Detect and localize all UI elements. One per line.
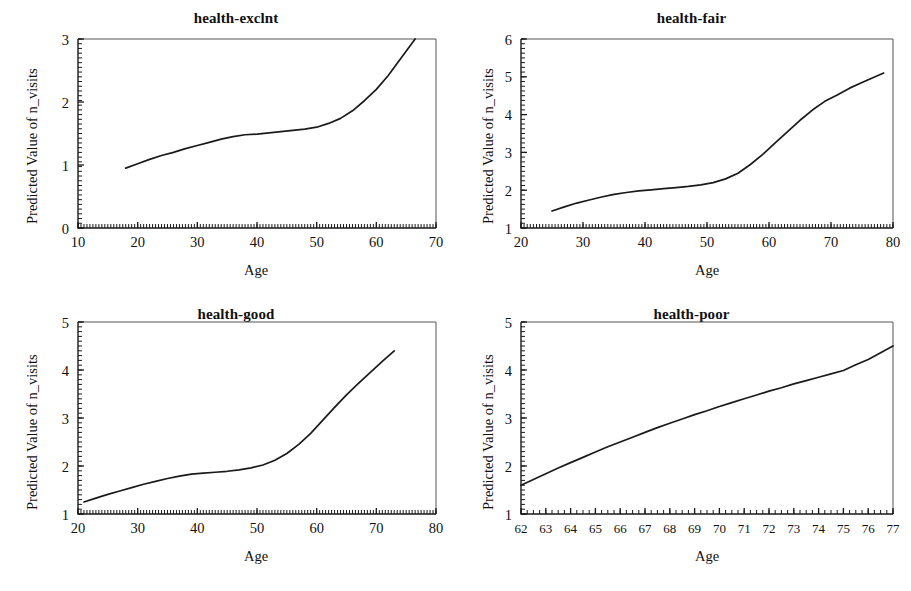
x-tick-label: 80 bbox=[886, 234, 901, 250]
y-tick-label: 2 bbox=[62, 95, 69, 111]
data-line bbox=[521, 346, 893, 485]
y-tick-label: 4 bbox=[505, 107, 513, 123]
y-tick-label: 1 bbox=[62, 507, 69, 523]
plot-health-poor: 6263646566676869707172737475767712345 bbox=[456, 296, 911, 591]
y-tick-label: 5 bbox=[62, 315, 69, 331]
x-tick-label: 10 bbox=[71, 234, 86, 250]
y-axis-label-3: Predicted Value of n_visits bbox=[480, 354, 497, 510]
y-tick-label: 4 bbox=[505, 363, 513, 379]
panel-grid: health-exclnt 102030405060700123 Predict… bbox=[0, 0, 911, 591]
y-axis-label-1: Predicted Value of n_visits bbox=[480, 68, 497, 224]
x-axis-label-1: Age bbox=[647, 262, 767, 279]
y-tick-label: 0 bbox=[62, 221, 69, 237]
panel-health-poor: health-poor 6263646566676869707172737475… bbox=[456, 296, 911, 591]
y-tick-label: 1 bbox=[505, 221, 512, 237]
y-tick-label: 3 bbox=[62, 32, 69, 48]
x-tick-label: 64 bbox=[564, 521, 578, 536]
x-axis-label-0: Age bbox=[196, 262, 316, 279]
x-tick-label: 50 bbox=[309, 234, 324, 250]
x-tick-label: 77 bbox=[887, 521, 901, 536]
x-tick-label: 66 bbox=[614, 521, 628, 536]
plot-health-fair: 20304050607080123456 bbox=[456, 0, 911, 296]
data-line bbox=[84, 351, 394, 502]
x-tick-label: 60 bbox=[309, 520, 324, 536]
x-tick-label: 70 bbox=[429, 234, 444, 250]
x-tick-label: 20 bbox=[514, 234, 529, 250]
x-tick-label: 70 bbox=[824, 234, 839, 250]
x-tick-label: 30 bbox=[130, 520, 145, 536]
y-tick-label: 2 bbox=[62, 459, 69, 475]
plot-health-exclnt: 102030405060700123 bbox=[0, 0, 456, 296]
x-tick-label: 76 bbox=[862, 521, 876, 536]
x-axis-label-3: Age bbox=[647, 548, 767, 565]
x-tick-label: 20 bbox=[130, 234, 145, 250]
x-tick-label: 74 bbox=[812, 521, 826, 536]
x-axis-label-2: Age bbox=[196, 548, 316, 565]
x-tick-label: 65 bbox=[589, 521, 602, 536]
x-tick-label: 50 bbox=[250, 520, 265, 536]
y-tick-label: 2 bbox=[505, 459, 512, 475]
x-tick-label: 75 bbox=[837, 521, 850, 536]
y-tick-label: 3 bbox=[505, 411, 512, 427]
x-tick-label: 70 bbox=[713, 521, 726, 536]
y-tick-label: 2 bbox=[505, 183, 512, 199]
x-tick-label: 40 bbox=[190, 520, 205, 536]
x-tick-label: 69 bbox=[688, 521, 701, 536]
panel-health-good: health-good 2030405060708012345 Predicte… bbox=[0, 296, 456, 591]
x-tick-label: 40 bbox=[250, 234, 265, 250]
plot-health-good: 2030405060708012345 bbox=[0, 296, 456, 591]
x-tick-label: 60 bbox=[369, 234, 384, 250]
y-tick-label: 3 bbox=[62, 411, 69, 427]
x-tick-label: 73 bbox=[787, 521, 800, 536]
x-tick-label: 72 bbox=[763, 521, 776, 536]
y-tick-label: 4 bbox=[62, 363, 70, 379]
panel-health-exclnt: health-exclnt 102030405060700123 Predict… bbox=[0, 0, 456, 296]
x-tick-label: 67 bbox=[639, 521, 653, 536]
x-tick-label: 80 bbox=[429, 520, 444, 536]
x-tick-label: 68 bbox=[663, 521, 676, 536]
x-tick-label: 62 bbox=[515, 521, 528, 536]
y-axis-label-0: Predicted Value of n_visits bbox=[24, 68, 41, 224]
panel-health-fair: health-fair 20304050607080123456 Predict… bbox=[456, 0, 911, 296]
x-tick-label: 50 bbox=[700, 234, 715, 250]
y-axis-label-2: Predicted Value of n_visits bbox=[24, 354, 41, 510]
data-line bbox=[126, 39, 415, 168]
x-tick-label: 40 bbox=[638, 234, 653, 250]
y-tick-label: 6 bbox=[505, 32, 512, 48]
data-line bbox=[552, 73, 884, 211]
y-tick-label: 5 bbox=[505, 69, 512, 85]
x-tick-label: 71 bbox=[738, 521, 751, 536]
y-tick-label: 1 bbox=[505, 507, 512, 523]
x-tick-label: 63 bbox=[539, 521, 552, 536]
x-tick-label: 30 bbox=[190, 234, 205, 250]
y-tick-label: 1 bbox=[62, 158, 69, 174]
x-tick-label: 30 bbox=[576, 234, 591, 250]
x-tick-label: 70 bbox=[369, 520, 384, 536]
y-tick-label: 5 bbox=[505, 315, 512, 331]
x-tick-label: 20 bbox=[71, 520, 86, 536]
x-tick-label: 60 bbox=[762, 234, 777, 250]
y-tick-label: 3 bbox=[505, 145, 512, 161]
